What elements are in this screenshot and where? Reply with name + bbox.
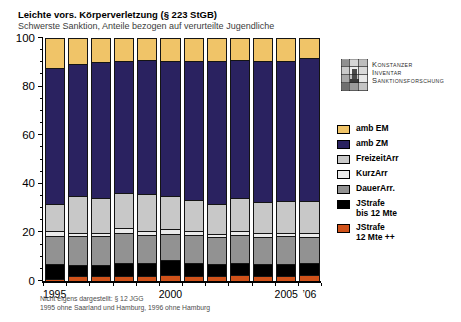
segment-amb-zm-2006 <box>300 58 318 201</box>
legend-item-amb-zm: amb ZM <box>337 139 399 149</box>
stacked-bar-1996 <box>68 38 88 281</box>
segment-freizeitarr-1995 <box>46 204 64 232</box>
segment-jstrafe-12-mte-2001 <box>185 276 203 281</box>
y-tick-35 <box>40 195 43 196</box>
y-tick-label-60: 60 <box>5 129 35 141</box>
y-tick-100 <box>38 37 43 38</box>
segment-freizeitarr-1997 <box>92 198 110 233</box>
segment-amb-em-2001 <box>185 39 203 61</box>
segment-jstrafe-12-mte-1995 <box>46 279 64 281</box>
segment-dauerarr-1996 <box>69 236 87 265</box>
segment-jstrafe-12-mte-2003 <box>231 275 249 281</box>
segment-jstrafe-12-mte-2006 <box>300 275 318 281</box>
y-tick-10 <box>40 256 43 257</box>
x-tick-1 <box>66 283 67 286</box>
segment-jstrafe-12-mte-1996 <box>69 276 87 281</box>
segment-amb-em-2004 <box>254 39 272 61</box>
segment-freizeitarr-2006 <box>300 201 318 232</box>
x-tick-4 <box>136 283 137 286</box>
x-tick-0 <box>43 283 44 286</box>
segment-amb-em-2000 <box>161 39 179 61</box>
segment-amb-zm-2002 <box>208 61 226 204</box>
bars-container <box>43 38 321 281</box>
kis-logo-line-3-initial: S <box>372 76 377 85</box>
x-tick-11 <box>298 283 299 286</box>
segment-dauerarr-1997 <box>92 236 110 265</box>
stacked-bar-1998 <box>114 38 134 281</box>
bar-slot-1995 <box>43 38 66 281</box>
chart-canvas: Leichte vors. Körperverletzung (§ 223 St… <box>0 0 461 322</box>
segment-jstrafe-bis-12-mte-2006 <box>300 263 318 275</box>
y-tick-80 <box>38 86 43 87</box>
stacked-bar-1999 <box>137 38 157 281</box>
segment-amb-zm-1997 <box>92 62 110 198</box>
stacked-bar-2002 <box>207 38 227 281</box>
legend-swatch-kurzarr <box>337 170 350 179</box>
legend-swatch-dauerarr <box>337 185 350 194</box>
segment-dauerarr-2003 <box>231 235 249 263</box>
segment-freizeitarr-1999 <box>138 194 156 232</box>
legend-item-kurzarr: KurzArr <box>337 169 399 179</box>
bar-slot-2004 <box>252 38 275 281</box>
y-tick-45 <box>40 171 43 172</box>
segment-freizeitarr-1996 <box>69 196 87 232</box>
plot-area: 020406080100 199520002005’06 <box>42 38 321 283</box>
x-tick-9 <box>252 283 253 286</box>
y-tick-0 <box>38 280 43 281</box>
stacked-bar-2003 <box>230 38 250 281</box>
bar-slot-2000 <box>159 38 182 281</box>
segment-freizeitarr-2002 <box>208 204 226 234</box>
kis-logo-text: KONSTANZERINVENTARSANKTIONSFORSCHUNG <box>372 59 444 85</box>
y-tick-5 <box>40 268 43 269</box>
x-tick-label-2006: ’06 <box>302 288 316 300</box>
segment-jstrafe-bis-12-mte-2005 <box>277 264 295 276</box>
stacked-bar-2004 <box>253 38 273 281</box>
y-tick-75 <box>40 98 43 99</box>
stacked-bar-1997 <box>91 38 111 281</box>
segment-amb-zm-2000 <box>161 61 179 197</box>
segment-dauerarr-1998 <box>115 233 133 263</box>
bar-slot-1997 <box>89 38 112 281</box>
kis-logo-line-2: INVENTAR <box>372 69 444 77</box>
y-tick-label-100: 100 <box>5 32 35 44</box>
footnote: Nicht eigens dargestellt: § 12 JGG 1995 … <box>40 294 210 312</box>
segment-jstrafe-12-mte-1998 <box>115 276 133 281</box>
y-tick-40 <box>38 183 43 184</box>
bar-slot-2006 <box>298 38 321 281</box>
stacked-bar-2005 <box>276 38 296 281</box>
segment-jstrafe-12-mte-1999 <box>138 276 156 281</box>
x-tick-10 <box>275 283 276 286</box>
segment-jstrafe-bis-12-mte-1998 <box>115 263 133 276</box>
x-tick-label-2005: 2005 <box>275 288 298 300</box>
segment-amb-zm-1999 <box>138 60 156 194</box>
legend-label-amb-em: amb EM <box>356 124 389 134</box>
segment-dauerarr-2006 <box>300 237 318 262</box>
bar-slot-1999 <box>136 38 159 281</box>
segment-freizeitarr-1998 <box>115 193 133 228</box>
segment-freizeitarr-2001 <box>185 200 203 231</box>
legend-item-freizeitarr: FreizeitArr <box>337 154 399 164</box>
legend-item-dauerarr: DauerArr. <box>337 184 399 194</box>
y-tick-label-40: 40 <box>5 178 35 190</box>
y-tick-55 <box>40 146 43 147</box>
legend-label-kurzarr: KurzArr <box>356 169 388 179</box>
segment-jstrafe-bis-12-mte-2003 <box>231 263 249 275</box>
stacked-bar-2000 <box>160 38 180 281</box>
footnote-line-1: Nicht eigens dargestellt: § 12 JGG <box>40 294 210 303</box>
segment-dauerarr-2000 <box>161 234 179 261</box>
y-tick-label-0: 0 <box>5 275 35 287</box>
segment-jstrafe-bis-12-mte-2002 <box>208 264 226 276</box>
y-tick-65 <box>40 122 43 123</box>
legend-label-dauerarr: DauerArr. <box>356 184 395 194</box>
segment-jstrafe-bis-12-mte-2000 <box>161 260 179 275</box>
segment-jstrafe-bis-12-mte-1999 <box>138 263 156 276</box>
x-tick-12 <box>321 283 322 286</box>
segment-jstrafe-bis-12-mte-1997 <box>92 265 110 276</box>
segment-amb-zm-2004 <box>254 61 272 203</box>
segment-jstrafe-12-mte-1997 <box>92 276 110 281</box>
y-tick-15 <box>40 244 43 245</box>
segment-amb-zm-1998 <box>115 61 133 193</box>
segment-amb-em-1998 <box>115 39 133 61</box>
bar-slot-2003 <box>228 38 251 281</box>
y-tick-50 <box>40 159 43 160</box>
